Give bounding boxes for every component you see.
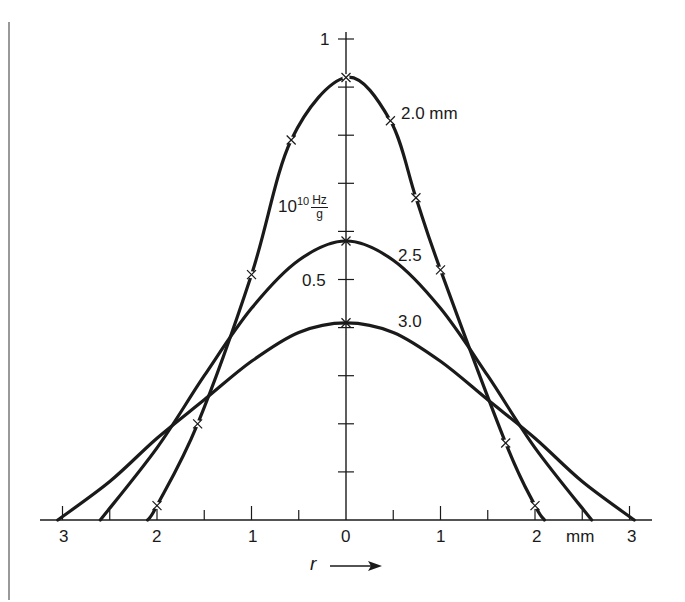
curve-label-2.0mm: 2.0 mm: [401, 105, 458, 122]
x-tick-label-right-3: 3: [627, 528, 636, 545]
axes: [40, 32, 652, 520]
x-tick-label-left-1: 1: [248, 528, 257, 545]
chart-canvas: [0, 0, 685, 602]
y-unit-label: 1010 Hz g: [278, 194, 328, 220]
y-tick-label-1: 1: [320, 31, 329, 48]
curve-label-2.5: 2.5: [398, 247, 422, 264]
x-axis-variable-label: r: [310, 553, 316, 575]
x-tick-label-right-2: 2: [532, 528, 541, 545]
curve-label-3.0: 3.0: [398, 313, 422, 330]
x-unit-label: mm: [566, 528, 594, 545]
x-tick-label-left-3: 3: [59, 528, 68, 545]
x-tick-label-left-2: 2: [152, 528, 161, 545]
unit-fraction: Hz g: [311, 194, 328, 220]
x-axis-direction-arrow-icon: [328, 558, 384, 574]
y-tick-label-0.5: 0.5: [302, 272, 326, 289]
x-tick-label-0: 0: [341, 528, 350, 545]
x-tick-label-right-1: 1: [436, 528, 445, 545]
